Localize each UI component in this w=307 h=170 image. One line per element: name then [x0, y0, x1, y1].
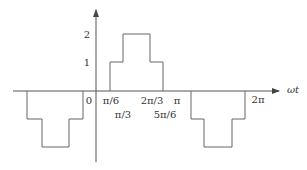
y-tick-2: 2 — [84, 30, 90, 40]
x-label-2pi-3: 2π/3 — [141, 96, 164, 106]
x-label-5pi-6: 5π/6 — [154, 110, 177, 120]
waveform-positive — [110, 34, 163, 91]
x-label-2pi: 2π — [252, 95, 265, 105]
origin-label: 0 — [86, 96, 92, 106]
waveform-svg — [0, 0, 307, 170]
x-axis-label: ωt — [287, 85, 299, 95]
y-tick-1: 1 — [84, 58, 90, 68]
waveform-diagram: 2 1 0 π/6 2π/3 π 2π π/3 5π/6 ωt — [0, 0, 307, 170]
waveform-negative-right — [191, 91, 245, 147]
waveform-negative-left — [27, 91, 83, 147]
x-label-pi-6: π/6 — [103, 96, 119, 106]
x-label-pi-3: π/3 — [115, 110, 131, 120]
x-label-pi: π — [174, 96, 181, 106]
